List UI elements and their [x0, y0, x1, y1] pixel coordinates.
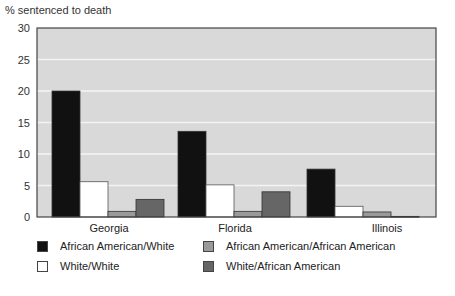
- bar: [178, 131, 206, 217]
- legend-swatch: [203, 261, 214, 272]
- bar: [206, 185, 234, 217]
- legend-item-african-american-white: African American/White: [37, 240, 174, 252]
- y-tick-label: 30: [18, 22, 30, 34]
- legend-swatch: [37, 241, 48, 252]
- bar: [52, 91, 80, 217]
- legend-label: White/African American: [226, 260, 340, 272]
- legend-item-african-american-african-american: African American/African American: [203, 240, 395, 252]
- y-tick-label: 0: [24, 211, 30, 223]
- bar: [108, 211, 136, 217]
- legend-swatch: [203, 241, 214, 252]
- y-tick-label: 15: [18, 117, 30, 129]
- legend-swatch: [37, 261, 48, 272]
- legend-label: African American/White: [60, 240, 174, 252]
- bar: [335, 206, 363, 217]
- legend-label: African American/African American: [226, 240, 395, 252]
- legend-item-white-white: White/White: [37, 260, 119, 272]
- bar: [234, 211, 262, 217]
- x-tick-label: Florida: [218, 222, 253, 234]
- bar: [363, 212, 391, 217]
- legend-item-white-african-american: White/African American: [203, 260, 340, 272]
- bar: [262, 192, 290, 217]
- y-tick-label: 25: [18, 54, 30, 66]
- x-tick-label: Illinois: [372, 222, 403, 234]
- y-tick-label: 10: [18, 148, 30, 160]
- bar: [307, 169, 335, 217]
- bar: [80, 182, 108, 217]
- x-tick-label: Georgia: [89, 222, 129, 234]
- y-tick-label: 5: [24, 180, 30, 192]
- legend-label: White/White: [60, 260, 119, 272]
- bar: [136, 199, 164, 217]
- y-tick-label: 20: [18, 85, 30, 97]
